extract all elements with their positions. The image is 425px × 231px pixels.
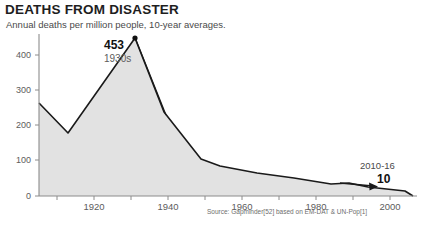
end-value-label: 10 xyxy=(377,172,390,186)
disaster-deaths-chart: DEATHS FROM DISASTER Annual deaths per m… xyxy=(0,0,425,231)
end-period-label: 2010-16 xyxy=(360,160,395,171)
x-tick-label-1920: 1920 xyxy=(74,201,114,212)
x-tick-label-1940: 1940 xyxy=(148,201,188,212)
peak-marker-dot xyxy=(132,35,137,40)
x-tick-label-2000: 2000 xyxy=(370,201,410,212)
peak-period-label: 1930s xyxy=(104,53,131,64)
y-tick-label-400: 400 xyxy=(5,50,31,60)
y-tick-label-100: 100 xyxy=(5,155,31,165)
source-note: Source: Gapminder[52] based on EM-DAT & … xyxy=(207,208,367,215)
y-tick-label-200: 200 xyxy=(5,120,31,130)
y-tick-label-0: 0 xyxy=(5,191,31,201)
y-tick-label-300: 300 xyxy=(5,85,31,95)
peak-value-label: 453 xyxy=(104,38,124,52)
chart-plot-area xyxy=(0,0,425,231)
area-fill xyxy=(39,38,413,196)
